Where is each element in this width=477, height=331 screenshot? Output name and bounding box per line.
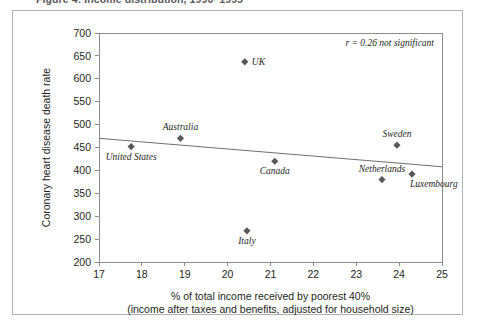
x-tick-label: 22 [308,268,320,280]
data-point[interactable]: UK [241,57,265,67]
y-tick-label: 500 [73,118,91,130]
data-point-label: Canada [260,166,290,176]
data-point[interactable]: Italy [237,227,256,246]
axes-group [95,33,442,266]
data-points-group: UKAustraliaUnited StatesCanadaSwedenNeth… [106,57,458,246]
data-point-marker[interactable] [241,58,248,65]
x-axis-title: % of total income received by poorest 40… [171,290,370,302]
y-tick-label: 700 [73,27,91,39]
y-tick-label: 200 [73,256,91,268]
y-tick-label: 450 [73,141,91,153]
y-tick-label: 400 [73,164,91,176]
data-point-label: Netherlands [358,164,406,174]
data-point[interactable]: Sweden [382,129,411,149]
data-point-label: Italy [237,236,256,246]
x-tick-label: 17 [93,268,105,280]
x-tick-label: 20 [222,268,234,280]
y-tick-label: 250 [73,233,91,245]
data-point-label: Australia [162,122,199,132]
data-point-label: United States [106,152,157,162]
y-axis-title: Coronary heart disease death rate [40,68,52,228]
data-point-marker[interactable] [177,135,184,142]
x-tick-label: 23 [350,268,362,280]
x-tick-label: 21 [265,268,277,280]
y-tick-label: 550 [73,95,91,107]
annotation-group: r = 0.26 not significant [346,38,435,48]
data-point-marker[interactable] [243,227,250,234]
scatter-chart: 2002503003504004505005506006507001718192… [0,0,477,331]
data-point-label: UK [252,57,266,67]
x-tick-label: 24 [393,268,405,280]
data-point[interactable]: Australia [162,122,199,142]
data-point[interactable]: Netherlands [358,164,406,184]
data-point-marker[interactable] [393,142,400,149]
data-point[interactable]: Canada [260,158,290,177]
data-point-label: Sweden [382,129,411,139]
y-tick-label: 600 [73,72,91,84]
y-tick-label: 350 [73,187,91,199]
data-point-label: Luxembourg [409,179,458,189]
data-point-marker[interactable] [128,143,135,150]
data-point[interactable]: United States [106,143,157,162]
data-point-marker[interactable] [271,158,278,165]
data-point-marker[interactable] [378,176,385,183]
x-tick-label: 18 [136,268,148,280]
data-point-marker[interactable] [408,170,415,177]
x-axis-subtitle: (income after taxes and benefits, adjust… [127,303,414,315]
correlation-annotation: r = 0.26 not significant [346,38,435,48]
x-tick-label: 19 [179,268,191,280]
y-tick-label: 650 [73,50,91,62]
x-tick-label: 25 [436,268,448,280]
data-point[interactable]: Luxembourg [408,170,458,189]
y-tick-label: 300 [73,210,91,222]
